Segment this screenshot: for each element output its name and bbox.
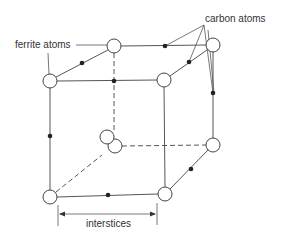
ferrite-atom-front-bottom-left: [43, 190, 57, 204]
edge-right-front-vertical: [164, 87, 165, 187]
carbon-atom: [48, 134, 53, 139]
ferrite-atom-back-top-left: [107, 39, 121, 53]
hidden-edge-horizontal: [122, 145, 206, 146]
carbon-atoms-label: carbon atoms: [205, 13, 266, 24]
carbon-atom: [112, 79, 117, 84]
ferrite-atom-front-top-left: [43, 74, 57, 88]
carbon-atom: [189, 167, 194, 172]
arrow-left-icon: [59, 212, 65, 217]
carbon-leader-2: [189, 25, 204, 62]
arrow-right-icon: [150, 212, 156, 217]
ferrite-atom-back-bottom-right: [206, 138, 220, 152]
edge-top-front: [57, 80, 157, 81]
ferrite-atoms-label: ferrite atoms: [15, 39, 71, 50]
carbon-atom: [211, 91, 216, 96]
ferrite-atom-front-top-right: [157, 73, 171, 87]
carbon-atom: [80, 61, 85, 66]
bcc-unit-cell-diagram: ferrite atoms carbon atoms interstices: [0, 0, 282, 242]
ferrite-atom-front-bottom-right: [158, 187, 172, 201]
ferrite-atom-back-top-right: [206, 38, 220, 52]
carbon-leader-1: [165, 25, 204, 46]
carbon-atom: [163, 44, 168, 49]
interstices-label: interstices: [86, 218, 131, 229]
hidden-edge-diagonal: [56, 155, 102, 192]
ferrite-leader-down: [48, 53, 49, 74]
carbon-atom: [187, 60, 192, 65]
carbon-atom: [106, 193, 111, 198]
ferrite-atom-back-bottom-left-a: [100, 130, 114, 144]
